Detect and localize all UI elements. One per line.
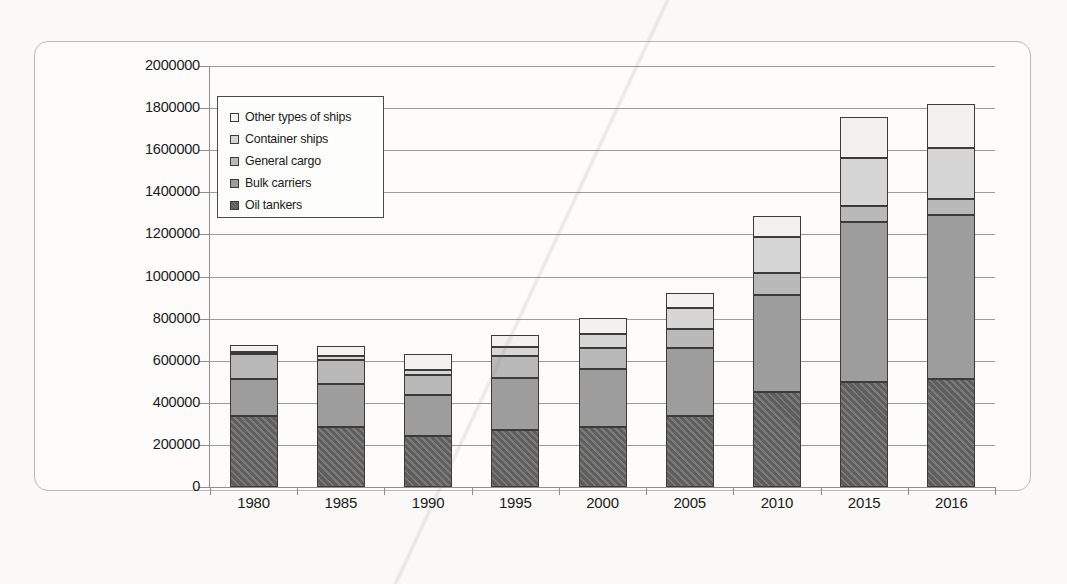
bar-segment[interactable]	[230, 379, 278, 416]
bar-segment[interactable]	[753, 392, 801, 487]
bar-segment[interactable]	[404, 354, 452, 370]
legend-swatch-icon	[230, 157, 239, 166]
bar-segment[interactable]	[753, 273, 801, 296]
legend-swatch-icon	[230, 201, 239, 210]
bar-segment[interactable]	[927, 104, 975, 148]
legend-item[interactable]: Bulk carriers	[230, 172, 383, 194]
bar-segment[interactable]	[666, 329, 714, 348]
x-axis-tick-label: 2010	[737, 494, 817, 511]
legend-item-label: Other types of ships	[245, 110, 351, 124]
legend-item[interactable]: General cargo	[230, 150, 383, 172]
bar-segment[interactable]	[491, 430, 539, 487]
x-axis-tick-label: 1990	[388, 494, 468, 511]
bar-segment[interactable]	[840, 206, 888, 222]
bar-segment[interactable]	[579, 334, 627, 347]
bar-segment[interactable]	[666, 416, 714, 487]
bar-segment[interactable]	[579, 369, 627, 427]
bar-segment[interactable]	[666, 308, 714, 329]
scanned-page-background: 0200000400000600000800000100000012000001…	[0, 0, 1067, 584]
legend-item-label: Container ships	[245, 132, 328, 146]
bar-segment[interactable]	[230, 345, 278, 352]
legend-item[interactable]: Container ships	[230, 128, 383, 150]
bar-segment[interactable]	[404, 375, 452, 395]
x-tick-mark	[995, 487, 996, 495]
x-tick-mark	[210, 487, 211, 495]
bar-segment[interactable]	[230, 352, 278, 354]
bar-segment[interactable]	[666, 293, 714, 308]
x-tick-mark	[733, 487, 734, 495]
y-axis-tick-label: 1600000	[145, 141, 200, 157]
bar-segment[interactable]	[317, 346, 365, 356]
legend-item[interactable]: Oil tankers	[230, 194, 383, 216]
y-axis-tick-label: 1800000	[145, 99, 200, 115]
bar-segment[interactable]	[579, 318, 627, 334]
bar-segment[interactable]	[840, 382, 888, 487]
y-tick-mark	[199, 66, 210, 67]
bar-segment[interactable]	[579, 427, 627, 487]
bar-segment[interactable]	[491, 335, 539, 347]
x-tick-mark	[821, 487, 822, 495]
legend-swatch-icon	[230, 135, 239, 144]
bar-segment[interactable]	[230, 354, 278, 378]
bar-segment[interactable]	[491, 347, 539, 356]
x-tick-mark	[472, 487, 473, 495]
y-tick-mark	[199, 234, 210, 235]
y-axis-tick-label: 400000	[153, 394, 200, 410]
stacked-bar-chart: 0200000400000600000800000100000012000001…	[0, 0, 1067, 584]
x-tick-mark	[559, 487, 560, 495]
bar-segment[interactable]	[579, 348, 627, 369]
bar-segment[interactable]	[840, 222, 888, 382]
y-axis-tick-label: 0	[192, 478, 200, 494]
bar-segment[interactable]	[491, 378, 539, 430]
y-axis-tick-label: 1400000	[145, 183, 200, 199]
bar-segment[interactable]	[491, 356, 539, 378]
chart-legend: Other types of shipsContainer shipsGener…	[217, 96, 384, 218]
y-tick-mark	[199, 192, 210, 193]
bar-segment[interactable]	[927, 215, 975, 379]
bar-segment[interactable]	[317, 427, 365, 487]
bar-segment[interactable]	[317, 356, 365, 360]
bar-segment[interactable]	[840, 158, 888, 206]
legend-item-label: General cargo	[245, 154, 321, 168]
bar-segment[interactable]	[927, 379, 975, 487]
x-tick-mark	[297, 487, 298, 495]
legend-item[interactable]: Other types of ships	[230, 106, 383, 128]
bar-segment[interactable]	[840, 117, 888, 158]
y-tick-mark	[199, 487, 210, 488]
x-axis-tick-label: 1985	[301, 494, 381, 511]
y-tick-mark	[199, 277, 210, 278]
y-tick-mark	[199, 108, 210, 109]
bar-segment[interactable]	[404, 370, 452, 375]
bar-segment[interactable]	[404, 436, 452, 487]
y-tick-mark	[199, 403, 210, 404]
y-tick-mark	[199, 319, 210, 320]
legend-item-label: Oil tankers	[245, 198, 302, 212]
bar-segment[interactable]	[753, 216, 801, 237]
bar-segment[interactable]	[230, 416, 278, 487]
x-axis-tick-label: 2015	[824, 494, 904, 511]
y-tick-mark	[199, 445, 210, 446]
legend-item-label: Bulk carriers	[245, 176, 311, 190]
y-axis-tick-label: 1000000	[145, 268, 200, 284]
x-axis-tick-label: 1995	[475, 494, 555, 511]
y-tick-mark	[199, 150, 210, 151]
y-axis-tick-label: 1200000	[145, 225, 200, 241]
bar-segment[interactable]	[666, 348, 714, 415]
bar-segment[interactable]	[317, 360, 365, 384]
x-axis-tick-label: 2016	[911, 494, 991, 511]
y-axis-tick-label: 200000	[153, 436, 200, 452]
y-axis-tick-label: 600000	[153, 352, 200, 368]
x-axis-tick-label: 1980	[214, 494, 294, 511]
legend-swatch-icon	[230, 179, 239, 188]
bar-segment[interactable]	[404, 395, 452, 436]
y-axis-tick-label: 2000000	[145, 57, 200, 73]
bar-segment[interactable]	[753, 295, 801, 391]
y-axis-tick-label: 800000	[153, 310, 200, 326]
y-tick-mark	[199, 361, 210, 362]
bar-segment[interactable]	[927, 199, 975, 215]
x-tick-mark	[384, 487, 385, 495]
bar-segment[interactable]	[753, 237, 801, 273]
bar-segment[interactable]	[927, 148, 975, 199]
x-axis-tick-label: 2005	[650, 494, 730, 511]
bar-segment[interactable]	[317, 384, 365, 428]
